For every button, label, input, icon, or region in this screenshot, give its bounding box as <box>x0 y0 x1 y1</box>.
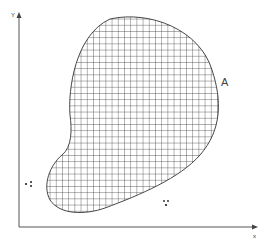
y-axis <box>17 12 22 227</box>
y-axis-arrow-icon <box>17 12 22 18</box>
diagram-canvas <box>0 0 267 241</box>
x-axis <box>19 225 258 230</box>
point-cluster-left <box>25 181 32 187</box>
x-axis-arrow-icon <box>252 225 258 230</box>
region-a <box>40 5 230 220</box>
point-cluster-right <box>163 200 169 206</box>
region-label: A <box>221 77 228 88</box>
x-axis-label: x <box>253 233 256 239</box>
y-axis-label: Y <box>11 12 15 18</box>
